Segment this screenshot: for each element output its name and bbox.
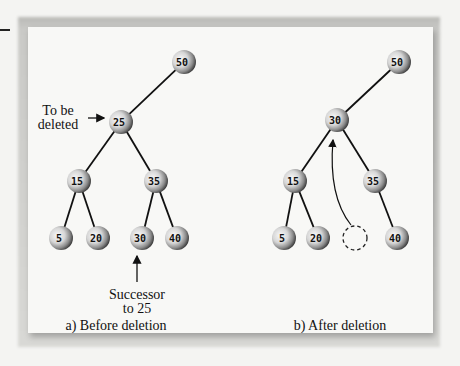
panel-after-deletion: 5030153552040 — [272, 50, 411, 250]
tree-node-50: 50 — [172, 50, 196, 74]
tree-node-30: 30 — [130, 226, 154, 250]
node-label: 25 — [113, 117, 125, 128]
caption-before-deletion: a) Before deletion — [65, 318, 166, 334]
tree-node-35: 35 — [144, 169, 168, 193]
to-be-deleted-line1: To be — [42, 103, 73, 118]
tree-edge — [301, 129, 331, 172]
tree-edge — [345, 70, 391, 113]
tree-node-25: 25 — [109, 110, 133, 134]
node-label: 15 — [71, 176, 83, 187]
successor-annotation: Successor to 25 — [109, 256, 165, 316]
tree-node-40: 40 — [385, 226, 409, 250]
tree-edge — [379, 191, 393, 227]
tree-node-30: 30 — [325, 108, 349, 132]
tree-edge — [64, 191, 75, 227]
node-label: 20 — [310, 233, 322, 244]
tree-edge — [299, 191, 314, 228]
to-be-deleted-annotation: To be deleted — [38, 103, 104, 132]
caption-after-deletion: b) After deletion — [294, 318, 387, 334]
tree-node-5: 5 — [49, 226, 73, 250]
node-label: 35 — [148, 176, 160, 187]
successor-line1: Successor — [109, 287, 165, 302]
node-label: 15 — [287, 176, 299, 187]
tree-edge — [82, 191, 94, 227]
successor-line2: to 25 — [123, 301, 151, 316]
tree-edge — [85, 131, 114, 172]
to-be-deleted-line2: deleted — [38, 117, 78, 132]
node-label: 40 — [389, 233, 401, 244]
tree-edge — [160, 191, 173, 227]
node-label: 5 — [279, 233, 285, 244]
node-label: 30 — [329, 115, 341, 126]
tree-node-50: 50 — [387, 50, 411, 74]
tree-diagram: 502515355203040 5030153552040 To be dele… — [0, 0, 460, 366]
tree-node-40: 40 — [165, 226, 189, 250]
tree-edge — [127, 131, 151, 171]
node-label: 30 — [134, 233, 146, 244]
node-label: 50 — [391, 57, 403, 68]
panel-before-deletion: 502515355203040 — [49, 50, 196, 250]
tree-node-15: 15 — [67, 169, 91, 193]
node-label: 50 — [176, 57, 188, 68]
node-label: 20 — [90, 233, 102, 244]
node-label: 40 — [169, 233, 181, 244]
tree-node-20: 20 — [86, 226, 110, 250]
tree-node-5: 5 — [272, 226, 296, 250]
tree-edge — [343, 129, 369, 171]
tree-edge — [145, 192, 154, 228]
tree-node-20: 20 — [306, 226, 330, 250]
empty-node-placeholder — [343, 226, 367, 250]
tree-node-35: 35 — [363, 169, 387, 193]
tree-node-15: 15 — [283, 169, 307, 193]
node-label: 35 — [367, 176, 379, 187]
curved-move-arrow-icon — [332, 140, 351, 225]
tree-edge — [129, 70, 176, 115]
node-label: 5 — [56, 233, 62, 244]
tree-edge — [286, 192, 293, 227]
